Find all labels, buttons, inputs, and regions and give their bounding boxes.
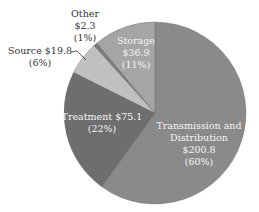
label-other: Other $2.3 (1%) xyxy=(71,8,99,43)
label-source: Source $19.8 (6%) xyxy=(8,45,72,68)
label-storage-name: Storage xyxy=(117,35,155,46)
label-source-percent: (6%) xyxy=(29,57,51,68)
label-storage-value: $36.9 xyxy=(122,47,149,58)
label-transmission-line2: Distribution xyxy=(170,132,228,143)
label-source-name: Source $19.8 xyxy=(8,45,72,56)
label-storage-percent: (11%) xyxy=(122,59,151,70)
label-transmission-percent: (60%) xyxy=(185,156,214,167)
label-treatment-name: Treatment $75.1 xyxy=(62,111,143,122)
label-transmission-line1: Transmission and xyxy=(156,120,241,131)
label-other-percent: (1%) xyxy=(74,32,96,43)
label-other-value: $2.3 xyxy=(74,20,95,31)
label-other-name: Other xyxy=(71,8,99,19)
pie-chart: Other $2.3 (1%) Source $19.8 (6%) Storag… xyxy=(0,0,259,212)
label-storage: Storage $36.9 (11%) xyxy=(117,35,155,70)
label-treatment-percent: (22%) xyxy=(88,123,117,134)
label-transmission-value: $200.8 xyxy=(182,144,215,155)
